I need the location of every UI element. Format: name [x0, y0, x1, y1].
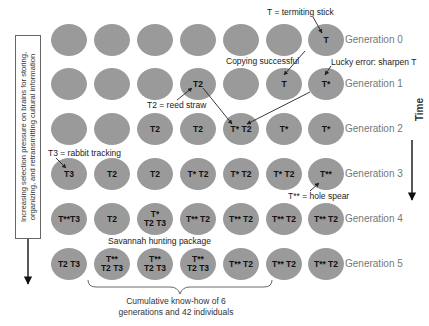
individual-node: T* T2 — [223, 113, 259, 145]
caption-line-1: Cumulative know-how of 6 — [96, 296, 256, 307]
individual-node: T* — [308, 68, 344, 100]
individual-node: T** — [308, 158, 344, 190]
annotation-reed-straw: T2 = reed straw — [147, 100, 206, 110]
generation-label: Generation 4 — [345, 213, 403, 224]
cumulative-brace — [88, 280, 272, 294]
annotation-hole-spear: T** = hole spear — [288, 191, 349, 201]
individual-node — [137, 68, 173, 100]
individual-node: T2 — [94, 158, 130, 190]
annotation-rabbit-tracking: T3 = rabbit tracking — [48, 148, 121, 158]
caption-line-2: generations and 42 individuals — [96, 307, 256, 318]
generation-label: Generation 2 — [345, 123, 403, 134]
individual-node: T* — [308, 113, 344, 145]
cumulative-know-how-caption: Cumulative know-how of 6 generations and… — [96, 296, 256, 318]
annotation-lucky-error: Lucky error: sharpen T — [331, 57, 416, 67]
individual-node: T* T2 T3 — [137, 203, 173, 235]
individual-node: T2 — [94, 203, 130, 235]
individual-node: T2 — [180, 68, 216, 100]
cultural-evolution-diagram: Increasing selection pressure on brains … — [0, 0, 429, 326]
individual-node: T2 — [180, 113, 216, 145]
individual-node — [94, 113, 130, 145]
individual-node: T** T2 — [180, 203, 216, 235]
individual-node: T* T2 — [223, 158, 259, 190]
individual-node: T3 — [51, 158, 87, 190]
annotation-copying-successful: Copying successful — [226, 56, 299, 66]
individual-node — [94, 24, 130, 56]
annotation-termiting-stick: T = termiting stick — [267, 7, 334, 17]
individual-node — [137, 24, 173, 56]
individual-node: T* — [266, 113, 302, 145]
individual-node: T** T2 — [223, 203, 259, 235]
individual-node: T2 T3 — [51, 248, 87, 280]
individual-node: T** T2 T3 — [94, 248, 130, 280]
individual-node — [51, 68, 87, 100]
individual-node: T**T3 — [51, 203, 87, 235]
individual-node: T** T2 — [308, 248, 344, 280]
annotation-savannah-package: Savannah hunting package — [108, 236, 211, 246]
individual-node — [51, 24, 87, 56]
generation-label: Generation 1 — [345, 78, 403, 89]
individual-node: T** T2 T3 — [137, 248, 173, 280]
individual-node — [94, 68, 130, 100]
individual-node: T** T2 T3 — [180, 248, 216, 280]
time-label: Time — [414, 95, 425, 125]
individual-node: T2 — [137, 158, 173, 190]
individual-node: T** T2 — [223, 248, 259, 280]
individual-node: T** T2 — [266, 203, 302, 235]
individual-node: T2 — [137, 113, 173, 145]
individual-node: T* T2 — [180, 158, 216, 190]
individual-node — [51, 113, 87, 145]
selection-pressure-text: Increasing selection pressure on brains … — [19, 37, 37, 237]
individual-node — [223, 24, 259, 56]
selection-pressure-box: Increasing selection pressure on brains … — [15, 35, 41, 239]
generation-label: Generation 3 — [345, 168, 403, 179]
individual-node — [223, 68, 259, 100]
generation-label: Generation 5 — [345, 258, 403, 269]
individual-node: T — [308, 24, 344, 56]
individual-node: T* T2 — [266, 158, 302, 190]
individual-node — [180, 24, 216, 56]
individual-node — [266, 24, 302, 56]
individual-node: T — [266, 68, 302, 100]
individual-node: T** T2 — [308, 203, 344, 235]
individual-node: T** T2 — [266, 248, 302, 280]
generation-label: Generation 0 — [345, 34, 403, 45]
